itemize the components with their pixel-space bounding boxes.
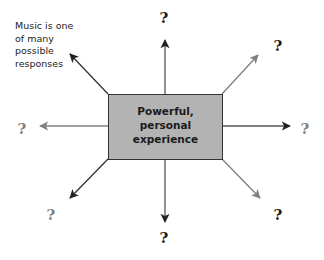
question-mark-bottom-right: ? [272,207,284,223]
question-mark-left: ? [16,121,28,137]
arrow-top-right [222,55,258,94]
diagram-canvas: Music is one of many possible responses … [0,0,324,260]
question-mark-top-right: ? [272,38,284,54]
question-mark-right: ? [299,121,311,137]
center-experience-label: Powerful, personal experience [133,104,198,146]
question-mark-bottom-left: ? [45,207,57,223]
center-experience-box: Powerful, personal experience [108,94,223,160]
arrow-top-left [70,54,108,94]
arrow-bottom-left [70,159,108,198]
question-mark-bottom: ? [158,230,170,246]
question-mark-top: ? [158,10,170,26]
music-note-label: Music is one of many possible responses [15,20,73,70]
arrow-bottom-right [222,159,260,198]
